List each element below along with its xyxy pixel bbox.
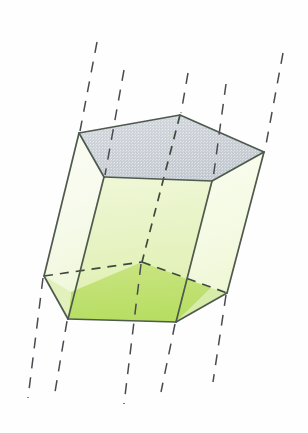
oblique-pentagonal-prism-figure (0, 0, 308, 433)
figure-canvas (0, 0, 308, 433)
guide-line-9 (161, 324, 175, 392)
guide-line-1 (80, 42, 97, 131)
guide-line-10 (213, 295, 226, 382)
guide-line-3 (181, 73, 188, 113)
guide-line-6 (28, 278, 43, 398)
guide-line-5 (265, 53, 283, 150)
guide-line-7 (55, 321, 67, 392)
